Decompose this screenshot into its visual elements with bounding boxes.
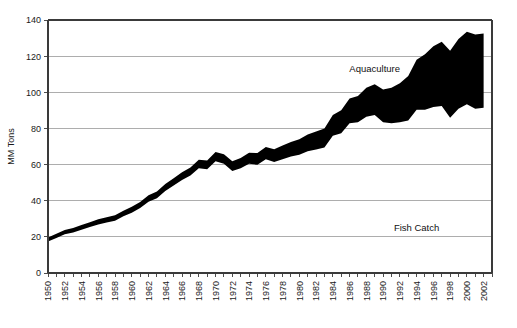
x-tick-label-2002: 2002	[479, 281, 489, 301]
x-tick-label-1974: 1974	[244, 281, 254, 301]
x-tick-label-1980: 1980	[295, 281, 305, 301]
y-axis-title-text: MM Tons	[6, 128, 16, 165]
x-tick-label-1966: 1966	[177, 281, 187, 301]
x-tick-label-1994: 1994	[412, 281, 422, 301]
x-tick-label-1990: 1990	[378, 281, 388, 301]
y-tick-label-60: 60	[31, 160, 41, 170]
fisheries-production-area-chart: 020406080100120140 195019521954195619581…	[0, 0, 517, 328]
x-tick-label-1954: 1954	[77, 281, 87, 301]
x-tick-label-1998: 1998	[445, 281, 455, 301]
x-tick-label-1958: 1958	[110, 281, 120, 301]
x-tick-label-1982: 1982	[311, 281, 321, 301]
x-tick-label-1968: 1968	[194, 281, 204, 301]
y-tick-label-140: 140	[26, 15, 41, 25]
x-tick-label-1972: 1972	[228, 281, 238, 301]
x-tick-label-1952: 1952	[60, 281, 70, 301]
y-tick-label-120: 120	[26, 52, 41, 62]
gridlines	[48, 20, 492, 237]
x-tick-label-1970: 1970	[211, 281, 221, 301]
x-tick-label-2000: 2000	[462, 281, 472, 301]
x-tick-label-1956: 1956	[94, 281, 104, 301]
x-tick-label-1962: 1962	[144, 281, 154, 301]
x-axis-tick-labels: 1950195219541956195819601962196419661968…	[43, 281, 489, 301]
x-tick-label-1978: 1978	[278, 281, 288, 301]
x-tick-label-1996: 1996	[429, 281, 439, 301]
stacked-area-series	[48, 32, 484, 242]
annotation-aquaculture: Aquaculture	[349, 63, 400, 74]
x-tick-label-1992: 1992	[395, 281, 405, 301]
y-tick-label-0: 0	[36, 268, 41, 278]
chart-container: 020406080100120140 195019521954195619581…	[0, 0, 517, 328]
y-tick-label-100: 100	[26, 88, 41, 98]
x-tick-label-1988: 1988	[362, 281, 372, 301]
annotation-fish-catch: Fish Catch	[394, 222, 439, 233]
x-tick-label-1984: 1984	[328, 281, 338, 301]
y-tick-label-80: 80	[31, 124, 41, 134]
area-aquaculture-plus-fish-catch	[48, 32, 484, 242]
y-axis-tick-labels: 020406080100120140	[26, 15, 41, 278]
x-tick-label-1976: 1976	[261, 281, 271, 301]
x-tick-label-1964: 1964	[161, 281, 171, 301]
x-tick-label-1986: 1986	[345, 281, 355, 301]
y-axis-title: MM Tons	[6, 128, 16, 165]
y-tick-label-20: 20	[31, 232, 41, 242]
x-tick-label-1950: 1950	[43, 281, 53, 301]
x-tick-label-1960: 1960	[127, 281, 137, 301]
y-tick-label-40: 40	[31, 196, 41, 206]
